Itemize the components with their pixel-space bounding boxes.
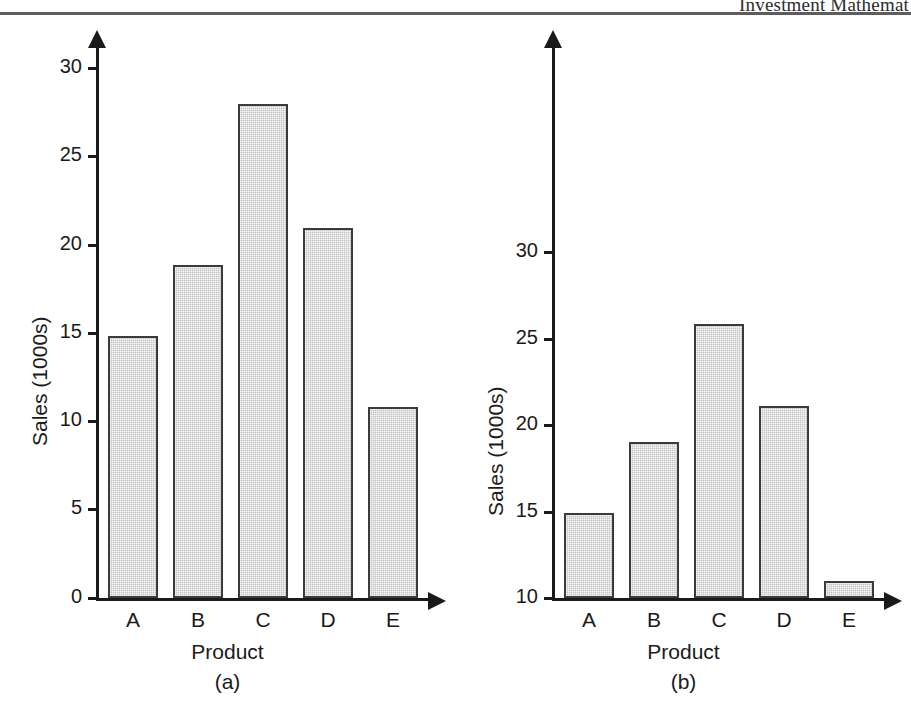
plot-area-a: 0 5 10 15 20 25 30 A B C D E	[0, 16, 455, 636]
bar-b-B	[629, 442, 679, 598]
bar-b-C	[694, 324, 744, 598]
x-tick-label-a-B: B	[173, 608, 223, 632]
x-tick-label-b-C: C	[694, 608, 744, 632]
bar-a-E	[368, 407, 418, 598]
x-tick-label-b-E: E	[824, 608, 874, 632]
y-tick-a-25	[88, 155, 97, 158]
chart-panel-a: 0 5 10 15 20 25 30 A B C D E	[0, 16, 455, 710]
y-tick-a-0	[88, 597, 97, 600]
x-tick-label-b-B: B	[629, 608, 679, 632]
y-tick-label-b-25: 25	[496, 326, 538, 349]
y-axis-arrow-b	[544, 30, 562, 48]
plot-area-b: 10 15 20 25 30 A B C D E	[456, 16, 911, 636]
y-axis-title-a: Sales (1000s)	[28, 316, 52, 446]
y-tick-label-a-0: 0	[40, 585, 82, 608]
y-tick-a-10	[88, 420, 97, 423]
y-tick-label-a-30: 30	[40, 55, 82, 78]
figure-bar-chart-pair: 0 5 10 15 20 25 30 A B C D E	[0, 16, 911, 710]
bar-a-D	[303, 228, 353, 598]
y-tick-label-a-5: 5	[40, 496, 82, 519]
x-axis-line-b	[552, 598, 886, 601]
y-tick-a-5	[88, 508, 97, 511]
x-tick-label-b-D: D	[759, 608, 809, 632]
y-axis-line-b	[552, 48, 555, 601]
bar-a-B	[173, 265, 223, 598]
y-tick-a-20	[88, 244, 97, 247]
bar-b-D	[759, 406, 809, 598]
chart-panel-b: 10 15 20 25 30 A B C D E Sales (1000s)	[456, 16, 911, 710]
bar-b-E	[824, 581, 874, 598]
panel-caption-a: (a)	[0, 670, 455, 694]
y-tick-label-a-25: 25	[40, 143, 82, 166]
x-tick-label-a-E: E	[368, 608, 418, 632]
x-tick-label-a-C: C	[238, 608, 288, 632]
bar-a-A	[108, 336, 158, 598]
x-axis-arrow-b	[884, 592, 902, 610]
x-axis-line-a	[96, 598, 430, 601]
bar-b-A	[564, 513, 614, 598]
y-tick-label-a-20: 20	[40, 232, 82, 255]
x-axis-arrow-a	[428, 592, 446, 610]
y-tick-label-b-30: 30	[496, 239, 538, 262]
panel-caption-b: (b)	[456, 670, 911, 694]
x-tick-label-a-D: D	[303, 608, 353, 632]
x-tick-label-b-A: A	[564, 608, 614, 632]
header-rule	[0, 12, 911, 15]
y-tick-b-20	[544, 424, 553, 427]
bar-a-C	[238, 104, 288, 598]
x-axis-title-a: Product	[0, 640, 455, 664]
y-tick-label-b-10: 10	[496, 585, 538, 608]
x-tick-label-a-A: A	[108, 608, 158, 632]
y-axis-title-b: Sales (1000s)	[484, 386, 508, 516]
x-axis-title-b: Product	[456, 640, 911, 664]
y-tick-a-30	[88, 67, 97, 70]
y-tick-a-15	[88, 332, 97, 335]
y-axis-line-a	[96, 48, 99, 601]
y-axis-arrow-a	[88, 30, 106, 48]
y-tick-b-30	[544, 251, 553, 254]
y-tick-b-10	[544, 597, 553, 600]
y-tick-b-15	[544, 511, 553, 514]
y-tick-b-25	[544, 338, 553, 341]
